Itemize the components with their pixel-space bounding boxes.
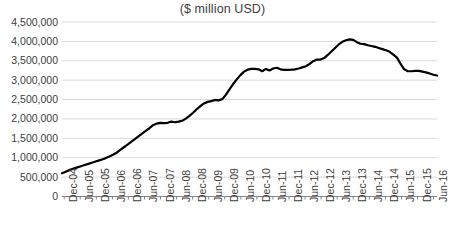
x-axis-tick-label: Dec-08 [197,168,208,202]
x-axis-tick-label: Dec-12 [325,168,336,202]
x-axis-tick-label: Dec-07 [165,168,176,202]
x-axis-tick-label: Jun-10 [245,169,256,201]
x-axis-tick-label: Dec-15 [422,168,433,202]
x-axis-tick-label: Jun-11 [277,170,288,201]
x-axis-tick-label: Dec-10 [261,168,272,202]
x-axis-tick-label: Jun-05 [84,169,95,201]
x-axis-tick-label: Dec-05 [100,168,111,202]
x-axis-tick-label: Jun-13 [341,169,352,201]
x-axis-tick-label: Jun-08 [181,169,192,201]
x-axis-tick-label: Dec-11 [293,168,304,201]
x-axis-tick-label: Jun-14 [373,169,384,201]
x-axis-tick-label: Dec-04 [68,168,79,202]
x-axis-tick-label: Dec-06 [132,168,143,202]
x-axis-tick-label: Dec-09 [229,168,240,202]
x-axis-tick-label: Jun-09 [213,169,224,201]
x-axis-tick-label: Jun-16 [438,169,449,201]
x-axis-tick-label: Jun-06 [116,169,127,201]
x-axis-tick-label: Jun-12 [309,169,320,201]
x-axis-tick-label: Dec-14 [389,168,400,202]
x-axis-tick-label: Jun-15 [405,169,416,201]
x-axis-tick-label: Jun-07 [148,169,159,201]
x-axis-tick-label: Dec-13 [357,168,368,202]
